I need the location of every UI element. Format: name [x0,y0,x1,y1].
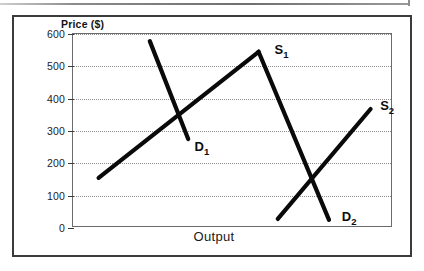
curve-d2 [259,52,329,220]
scan-edge-line [0,3,410,5]
y-axis-title: Price ($) [61,18,104,30]
curve-label-d2: D2 [342,209,357,227]
tick-label-200: 200 [47,157,65,169]
curves-svg [73,34,393,228]
tick-label-600: 600 [47,28,65,40]
curve-label-s1: S1 [275,42,289,60]
chart-area: Price ($) 600 500 400 300 200 100 0 [14,17,414,259]
tick-label-400: 400 [47,93,65,105]
x-axis-title: Output [14,229,414,244]
tick-label-500: 500 [47,60,65,72]
figure-frame: Price ($) 600 500 400 300 200 100 0 [12,15,412,257]
plot-box: 600 500 400 300 200 100 0 [72,33,392,227]
curve-label-s2: S2 [380,98,394,116]
tick-label-100: 100 [47,190,65,202]
scan-corner-right [408,0,410,6]
scan-artifact-top-strip [0,0,424,10]
curve-label-d1: D1 [195,139,210,157]
tick-label-300: 300 [47,125,65,137]
